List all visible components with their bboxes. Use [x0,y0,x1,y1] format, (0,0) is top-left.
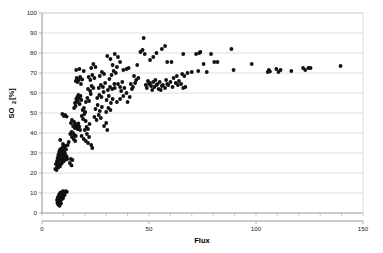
data-point [128,95,132,99]
data-point [70,164,74,168]
data-point [107,94,111,98]
data-point [163,86,167,90]
data-point [209,52,213,56]
data-point [309,66,313,70]
x-tick-label-150: 150 [358,225,369,232]
data-point [160,47,164,51]
data-point [111,97,115,101]
data-point [164,78,168,82]
y-tick-label-0: 0 [34,209,38,216]
data-point [76,122,80,126]
data-point [142,36,146,40]
data-point [96,103,100,107]
data-point [181,52,185,56]
y-tick-label-80: 80 [30,49,37,56]
data-point [95,118,99,122]
data-point [183,85,187,89]
data-point [100,105,104,109]
y-tick-label-50: 50 [30,109,37,116]
data-point [229,47,233,51]
data-point [171,85,175,89]
y-tick-label-10: 10 [30,189,37,196]
data-point [279,68,283,72]
data-point [65,157,69,161]
data-point [78,67,82,71]
data-point [165,60,169,64]
data-point [115,65,119,69]
data-point [91,86,95,90]
data-point [83,110,87,114]
data-point [73,139,77,143]
data-point [163,44,167,48]
data-point [98,109,102,113]
data-point [77,125,81,129]
data-point [115,100,119,104]
y-tick-label-40: 40 [30,129,37,136]
data-point [79,94,83,98]
data-point [116,55,120,59]
data-point [105,128,109,132]
data-point [202,62,206,66]
data-point [159,88,163,92]
data-point [198,50,202,54]
data-point [118,85,122,89]
data-point [120,80,124,84]
data-point [125,91,129,95]
y-tick-label-100: 100 [27,9,38,16]
data-point [121,68,125,72]
data-point [216,60,220,64]
data-point [84,119,88,123]
data-point [190,70,194,74]
data-point [339,64,343,68]
y-axis-title: SO 2 [%] [7,88,17,119]
data-point [82,106,86,110]
data-point [303,68,307,72]
data-point [63,193,67,197]
data-point [102,72,106,76]
scatter-chart: 0102030405060708090100 050100150 SO 2 [%… [0,0,383,253]
data-point [108,77,112,81]
data-point [121,94,125,98]
data-point [119,89,123,93]
data-point [179,82,183,86]
data-point [78,128,82,132]
data-point [84,100,88,104]
data-point [79,82,83,86]
y-tick-label-90: 90 [30,29,37,36]
y-axis-title-unit: [%] [7,88,16,100]
data-point [67,140,71,144]
data-point [154,78,158,82]
data-point [98,74,102,78]
data-point [131,85,135,89]
data-point [65,115,69,119]
data-point [64,148,68,152]
data-point [65,190,69,194]
data-point [88,78,92,82]
data-point [87,99,91,103]
data-point [80,78,84,82]
data-point [155,51,159,55]
data-point [169,80,173,84]
x-axis-title: Flux [194,236,210,245]
data-point [118,97,122,101]
data-point [196,69,200,73]
data-point [93,76,97,80]
data-point [170,60,174,64]
data-point [143,52,147,56]
data-point [99,116,103,120]
data-point [182,74,186,78]
data-point [145,86,149,90]
data-point [110,73,114,77]
data-point [109,101,113,105]
data-point [127,66,131,70]
data-point [175,74,179,78]
data-point [151,55,155,59]
data-point [58,138,62,142]
y-axis-title-subscript: 2 [11,101,17,104]
data-point [113,86,117,90]
data-point [90,146,94,150]
data-point [205,70,209,74]
data-point [118,60,122,64]
y-tick-label-70: 70 [30,69,37,76]
data-point [78,102,82,106]
